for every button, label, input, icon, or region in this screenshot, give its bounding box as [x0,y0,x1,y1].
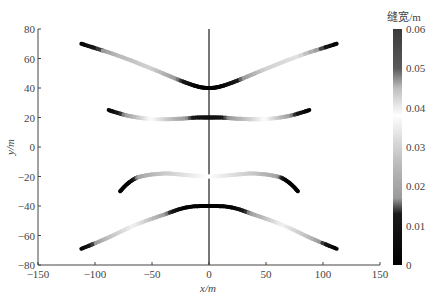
y-tick-label: 40 [24,82,36,94]
colorbar-title: 缝宽/m [387,10,421,23]
colorbar-tick-label: 0.04 [406,102,426,114]
colorbar-tick-label: 0 [406,259,412,271]
x-tick-label: 50 [261,268,273,280]
x-tick-label: −50 [143,268,161,280]
axes: −150−100−50050100150806040200−20−40−60−8… [18,23,389,280]
colorbar-tick-label: 0.06 [406,23,426,35]
x-tick-label: 0 [206,268,212,280]
colorbar-tick-label: 0.01 [406,220,425,232]
y-tick-label: 60 [24,53,36,65]
x-axis-label: x/m [199,282,216,294]
y-tick-label: −80 [18,259,36,271]
fracture-width-chart: −150−100−50050100150806040200−20−40−60−8… [0,0,438,304]
y-tick-label: 20 [24,112,36,124]
x-tick-label: 100 [315,268,332,280]
y-tick-label: −40 [18,200,36,212]
colorbar-tick-label: 0.02 [406,180,425,192]
y-tick-label: 0 [30,141,36,153]
x-tick-label: 150 [372,268,389,280]
plot-area [81,29,336,265]
colorbar-tick-label: 0.05 [406,62,426,74]
colorbar-tick-label: 0.03 [406,141,426,153]
y-tick-label: 80 [24,23,36,35]
x-tick-label: −100 [84,268,107,280]
y-axis-label: y/m [4,139,16,156]
y-tick-label: −60 [18,230,36,242]
colorbar-gradient [393,29,402,265]
colorbar: 0.060.050.040.030.020.010 [393,23,426,271]
y-tick-label: −20 [18,171,36,183]
